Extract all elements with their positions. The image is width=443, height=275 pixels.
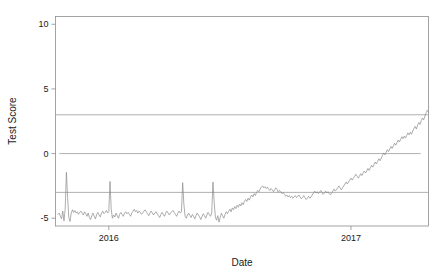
x-axis-title: Date [231,257,253,268]
chart-background [0,0,443,275]
chart-container: -50510 20162017 Date Test Score [0,0,443,275]
x-tick-label: 2016 [99,233,119,243]
y-tick-label: 10 [38,19,48,29]
y-tick-label: 5 [43,84,48,94]
y-tick-label: 0 [43,149,48,159]
y-tick-label: -5 [40,213,48,223]
x-tick-label: 2017 [341,233,361,243]
y-axis-title: Test Score [7,97,18,145]
test-score-line-chart: -50510 20162017 Date Test Score [0,0,443,275]
